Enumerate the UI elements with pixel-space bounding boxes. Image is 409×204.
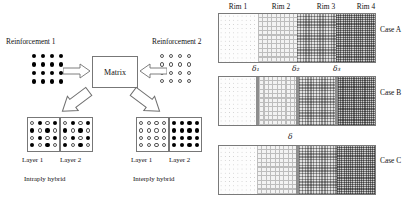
interply-layer2-marker <box>187 136 191 140</box>
block-arrow-left-icon <box>139 63 167 79</box>
interply-layer2-marker <box>172 143 176 147</box>
reinforcement-1-marker <box>32 71 37 76</box>
rim-segment-1 <box>219 14 258 62</box>
interply-layer1-marker <box>147 128 151 132</box>
rim-segment-3 <box>299 146 337 194</box>
rim-segment-4 <box>336 14 375 62</box>
reinforcement-1-marker <box>41 62 46 67</box>
reinforcement-1-marker <box>59 54 64 59</box>
intraply-layer2-marker <box>71 136 75 140</box>
interply-layer1-marker <box>154 143 158 147</box>
interply-layer1-marker <box>162 128 166 132</box>
reinforcement-2-marker <box>187 71 191 75</box>
interply-layer1-marker <box>139 121 143 125</box>
figure-root: Reinforcement 1 Reinforcement 2 Matrix <box>0 0 409 204</box>
intraply-layer1-marker <box>30 121 34 125</box>
case-a-label: Case A <box>380 25 401 34</box>
intraply-layer1-marker <box>30 136 34 140</box>
reinforcement-2-marker <box>178 54 182 58</box>
interply-layer2-marker <box>195 136 199 140</box>
interply-layer1-marker <box>154 136 158 140</box>
interply-layer2-marker <box>187 128 191 132</box>
intraply-layer1-box <box>27 117 60 152</box>
reinforcement-2-marker <box>160 54 164 58</box>
matrix-box: Matrix <box>92 56 138 88</box>
reinforcement-2-marker <box>169 71 173 75</box>
matrix-label: Matrix <box>104 68 126 77</box>
rim-segment-4 <box>337 146 375 194</box>
intraply-layer1-marker <box>45 121 49 125</box>
case-c-bar <box>218 145 376 195</box>
rim-segment-3 <box>297 14 336 62</box>
interply-layer2-box <box>169 117 202 152</box>
reinforcement-1-marker <box>41 54 46 59</box>
intraply-layer2-marker <box>86 128 90 132</box>
reinforcement-1-marker-grid <box>30 52 66 86</box>
rim-header-1: Rim 1 <box>217 2 259 11</box>
rim-segment-4 <box>338 77 375 125</box>
interply-layer2-marker <box>195 128 199 132</box>
interply-layer1-marker <box>139 128 143 132</box>
intraply-layer1-marker <box>30 143 34 147</box>
intraply-layer1-marker <box>30 128 34 132</box>
interply-layer2-marker <box>180 136 184 140</box>
rim-segment-1 <box>219 77 256 125</box>
intraply-layer1-marker <box>38 143 42 147</box>
interply-layer2-marker <box>195 121 199 125</box>
interply-layer2-marker <box>172 121 176 125</box>
reinforcement-1-marker <box>41 79 46 84</box>
interply-layer2-marker <box>180 121 184 125</box>
intraply-layer2-label: Layer 2 <box>60 157 81 164</box>
interply-layer1-marker <box>162 143 166 147</box>
reinforcement-1-marker <box>41 71 46 76</box>
intraply-layer2-marker <box>86 121 90 125</box>
intraply-layer1-marker <box>45 128 49 132</box>
reinforcement-1-marker <box>50 62 55 67</box>
interply-layer1-grid <box>138 119 168 149</box>
reinforcement-1-marker <box>32 54 37 59</box>
rim-header-2: Rim 2 <box>260 2 302 11</box>
intraply-layer2-box <box>60 117 93 152</box>
intraply-layer2-marker <box>71 121 75 125</box>
rim-segment-2 <box>257 146 295 194</box>
intraply-layer2-marker <box>63 128 67 132</box>
interply-layer2-marker <box>180 128 184 132</box>
block-arrow-down-left-icon <box>56 86 96 116</box>
intraply-layer1-grid <box>29 119 59 149</box>
intraply-layer1-marker <box>53 136 57 140</box>
interply-layer1-label: Layer 1 <box>131 157 152 164</box>
block-arrow-right-icon <box>63 63 91 79</box>
intraply-layer2-marker <box>86 136 90 140</box>
intraply-layer1-marker <box>45 136 49 140</box>
interply-layer2-marker <box>172 136 176 140</box>
block-arrow-down-right-icon <box>126 86 166 116</box>
interply-layer1-marker <box>154 121 158 125</box>
interply-layer1-marker <box>139 143 143 147</box>
interply-layer1-box <box>136 117 169 152</box>
intraply-layer1-marker <box>53 128 57 132</box>
intraply-layer1-marker <box>53 121 57 125</box>
reinforcement-1-marker <box>50 79 55 84</box>
intraply-layer1-marker <box>53 143 57 147</box>
intraply-layer2-marker <box>78 143 82 147</box>
intraply-caption: Intraply hybrid <box>24 176 66 183</box>
intraply-layer1-marker <box>38 128 42 132</box>
reinforcement-2-marker <box>178 79 182 83</box>
reinforcement-1-marker <box>32 62 37 67</box>
interply-caption: Interply hybrid <box>133 176 175 183</box>
intraply-layer1-marker <box>45 143 49 147</box>
interply-layer2-grid <box>171 119 201 149</box>
interply-layer1-marker <box>147 121 151 125</box>
intraply-layer1-marker <box>38 136 42 140</box>
rim-case-diagram: Rim 1 Rim 2 Rim 3 Rim 4 Case A Case B δ₁… <box>205 0 409 204</box>
interply-layer2-marker <box>195 143 199 147</box>
interply-layer1-marker <box>154 128 158 132</box>
interply-layer2-label: Layer 2 <box>169 157 190 164</box>
case-c-delta-label: δ <box>288 132 293 141</box>
reinforcement-1-marker <box>50 54 55 59</box>
reinforcement-2-marker <box>169 54 173 58</box>
interply-layer1-marker <box>139 136 143 140</box>
reinforcement-2-marker <box>169 62 173 66</box>
reinforcement-1-marker <box>32 79 37 84</box>
interply-layer2-marker <box>187 121 191 125</box>
